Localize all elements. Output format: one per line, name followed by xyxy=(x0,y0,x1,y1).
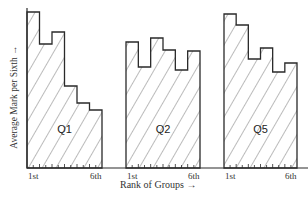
histogram-q1 xyxy=(27,12,102,168)
histogram-q5 xyxy=(224,14,297,168)
tick-label-first: 1st xyxy=(225,171,236,181)
panel-label-q5: Q5 xyxy=(253,123,268,135)
histogram-chart: Q1Q2Q5 xyxy=(0,0,308,198)
panel-label-q1: Q1 xyxy=(57,123,72,135)
panel-label-q2: Q2 xyxy=(156,123,171,135)
tick-label-last: 6th xyxy=(285,171,297,181)
tick-label-first: 1st xyxy=(127,171,138,181)
tick-label-last: 6th xyxy=(188,171,200,181)
tick-label-last: 6th xyxy=(90,171,102,181)
tick-label-first: 1st xyxy=(28,171,39,181)
histogram-q2 xyxy=(126,38,200,168)
y-axis-label: Average Mark per Sixth → xyxy=(9,37,19,157)
